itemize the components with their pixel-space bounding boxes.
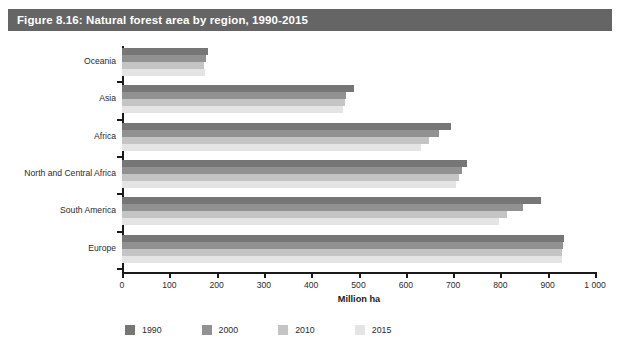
y-axis-tick — [117, 231, 123, 233]
x-axis-tick — [217, 272, 219, 278]
bar-africa-1990 — [122, 123, 451, 130]
x-axis-tick — [169, 272, 171, 278]
bar-group — [122, 85, 595, 122]
plot-bars — [122, 48, 595, 272]
bar-oceania-1990 — [122, 48, 208, 55]
bar-oceania-2000 — [122, 55, 206, 62]
bar-group — [122, 235, 595, 272]
chart-legend: 1990200020102015 — [125, 325, 431, 335]
x-axis-tick-label: 700 — [446, 280, 460, 290]
figure-caption-text: Figure 8.16: Natural forest area by regi… — [8, 14, 308, 26]
legend-swatch-icon — [355, 325, 365, 335]
legend-item-2010[interactable]: 2010 — [278, 325, 315, 335]
x-axis-tick — [122, 272, 124, 278]
x-axis-title: Million ha — [122, 294, 596, 304]
x-axis-tick-label: 0 — [120, 280, 125, 290]
x-axis-tick — [311, 272, 313, 278]
bar-south-america-1990 — [122, 197, 541, 204]
y-axis-label-south-america: South America — [0, 205, 116, 215]
legend-item-2000[interactable]: 2000 — [202, 325, 239, 335]
x-axis-tick-label: 800 — [493, 280, 507, 290]
bar-asia-2015 — [122, 106, 343, 113]
bar-south-america-2015 — [122, 218, 499, 225]
bar-asia-1990 — [122, 85, 354, 92]
bar-north-and-central-africa-1990 — [122, 160, 467, 167]
x-axis-tick-label: 200 — [209, 280, 223, 290]
legend-label: 1990 — [142, 325, 162, 335]
bar-europe-2015 — [122, 256, 562, 263]
bar-africa-2000 — [122, 130, 439, 137]
figure-container: Figure 8.16: Natural forest area by regi… — [0, 0, 620, 352]
y-axis-tick — [117, 268, 123, 270]
figure-caption-bar: Figure 8.16: Natural forest area by regi… — [8, 9, 612, 31]
legend-swatch-icon — [202, 325, 212, 335]
y-axis-label-north-and-central-africa: North and Central Africa — [0, 168, 116, 178]
legend-label: 2010 — [295, 325, 315, 335]
x-axis-tick-label: 500 — [351, 280, 365, 290]
x-axis-tick-label: 100 — [162, 280, 176, 290]
y-axis-tick — [117, 119, 123, 121]
chart-area: OceaniaAsiaAfricaNorth and Central Afric… — [0, 40, 620, 352]
legend-item-2015[interactable]: 2015 — [355, 325, 392, 335]
bar-group — [122, 123, 595, 160]
y-axis-tick — [117, 193, 123, 195]
x-axis-tick-label: 600 — [399, 280, 413, 290]
x-axis-tick-label: 1 000 — [584, 280, 606, 290]
x-axis-tick-label: 300 — [257, 280, 271, 290]
x-axis-tick-label: 400 — [304, 280, 318, 290]
x-axis-tick — [359, 272, 361, 278]
bar-south-america-2010 — [122, 211, 507, 218]
y-axis-tick — [117, 81, 123, 83]
x-axis-tick — [548, 272, 550, 278]
bar-group — [122, 48, 595, 85]
bar-north-and-central-africa-2010 — [122, 174, 459, 181]
y-axis-label-europe: Europe — [0, 243, 116, 253]
x-axis-tick — [453, 272, 455, 278]
bar-africa-2010 — [122, 137, 429, 144]
y-axis-tick — [117, 156, 123, 158]
bar-asia-2010 — [122, 99, 345, 106]
bar-europe-2000 — [122, 242, 563, 249]
legend-item-1990[interactable]: 1990 — [125, 325, 162, 335]
y-axis-labels: OceaniaAsiaAfricaNorth and Central Afric… — [0, 48, 116, 272]
legend-swatch-icon — [125, 325, 135, 335]
bar-oceania-2010 — [122, 62, 204, 69]
x-axis-tick — [264, 272, 266, 278]
bar-north-and-central-africa-2015 — [122, 181, 456, 188]
bar-north-and-central-africa-2000 — [122, 167, 462, 174]
y-axis-label-asia: Asia — [0, 93, 116, 103]
bar-south-america-2000 — [122, 204, 523, 211]
bar-group — [122, 160, 595, 197]
bar-asia-2000 — [122, 92, 346, 99]
x-axis-tick — [595, 272, 597, 278]
legend-label: 2015 — [372, 325, 392, 335]
y-axis-label-oceania: Oceania — [0, 56, 116, 66]
bar-africa-2015 — [122, 144, 421, 151]
x-axis-tick-label: 900 — [541, 280, 555, 290]
x-axis-tick — [406, 272, 408, 278]
bar-europe-1990 — [122, 235, 564, 242]
x-axis-tick — [500, 272, 502, 278]
bar-group — [122, 197, 595, 234]
y-axis-label-africa: Africa — [0, 131, 116, 141]
bar-europe-2010 — [122, 249, 562, 256]
bar-oceania-2015 — [122, 69, 205, 76]
legend-label: 2000 — [219, 325, 239, 335]
legend-swatch-icon — [278, 325, 288, 335]
